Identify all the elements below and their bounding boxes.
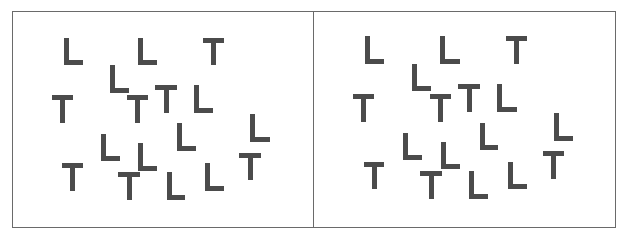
letter-t-glyph [127, 95, 148, 123]
letter-t-glyph [430, 94, 451, 122]
letter-l-glyph [64, 38, 83, 65]
letter-l-glyph [250, 114, 270, 142]
letter-stroke-horizontal [167, 195, 185, 200]
letter-l-glyph [205, 163, 224, 191]
letter-l-glyph [138, 38, 157, 65]
letter-l-glyph [469, 171, 488, 199]
letter-stroke-horizontal [127, 95, 148, 100]
letter-l-glyph [177, 123, 196, 151]
stimulus-frame [12, 11, 616, 228]
letter-stroke-horizontal [138, 60, 157, 65]
letter-stroke-horizontal [138, 166, 157, 171]
letter-stroke-horizontal [506, 36, 527, 41]
letter-stroke-horizontal [203, 38, 224, 43]
left-panel [13, 12, 314, 227]
letter-stroke-horizontal [508, 184, 527, 189]
letter-stroke-horizontal [155, 85, 177, 90]
letter-stroke-horizontal [205, 186, 224, 191]
letter-stroke-horizontal [412, 86, 431, 91]
letter-stroke-horizontal [118, 172, 140, 177]
right-panel [314, 12, 615, 227]
letter-l-glyph [101, 134, 120, 161]
letter-l-glyph [403, 133, 422, 160]
letter-l-glyph [554, 113, 573, 141]
letter-l-glyph [138, 143, 157, 171]
letter-stroke-horizontal [497, 107, 517, 112]
letter-l-glyph [194, 85, 213, 113]
letter-stroke-horizontal [52, 95, 73, 100]
letter-l-glyph [508, 162, 527, 189]
letter-t-glyph [203, 38, 224, 65]
letter-stroke-horizontal [420, 171, 442, 176]
letter-l-glyph [167, 172, 185, 200]
letter-stroke-horizontal [62, 163, 83, 168]
letter-stroke-horizontal [101, 156, 120, 161]
letter-l-glyph [497, 84, 517, 112]
letter-stroke-horizontal [250, 137, 270, 142]
letter-t-glyph [353, 94, 374, 122]
letter-l-glyph [441, 142, 460, 169]
letter-stroke-horizontal [554, 136, 573, 141]
letter-t-glyph [506, 36, 527, 64]
letter-stroke-horizontal [177, 146, 196, 151]
letter-stroke-horizontal [469, 194, 488, 199]
letter-t-glyph [420, 171, 442, 199]
letter-stroke-horizontal [480, 145, 498, 150]
letter-l-glyph [365, 36, 384, 64]
letter-l-glyph [110, 65, 129, 93]
letter-stroke-horizontal [364, 162, 384, 167]
letter-t-glyph [239, 153, 261, 180]
letter-t-glyph [52, 95, 73, 123]
letter-stroke-horizontal [543, 151, 564, 156]
letter-t-glyph [62, 163, 83, 191]
letter-stroke-horizontal [440, 59, 460, 64]
letter-l-glyph [412, 64, 431, 91]
letter-stroke-horizontal [365, 59, 384, 64]
letter-stroke-horizontal [403, 155, 422, 160]
letter-t-glyph [118, 172, 140, 200]
letter-stroke-horizontal [430, 94, 451, 99]
letter-t-glyph [543, 151, 564, 179]
letter-t-glyph [155, 85, 177, 113]
letter-stroke-horizontal [441, 164, 460, 169]
letter-stroke-horizontal [194, 108, 213, 113]
letter-stroke-horizontal [239, 153, 261, 158]
letter-l-glyph [480, 123, 498, 150]
letter-l-glyph [440, 36, 460, 64]
letter-stroke-horizontal [110, 88, 129, 93]
letter-t-glyph [364, 162, 384, 189]
letter-t-glyph [458, 84, 480, 112]
letter-stroke-horizontal [353, 94, 374, 99]
letter-stroke-horizontal [64, 60, 83, 65]
letter-stroke-horizontal [458, 84, 480, 89]
